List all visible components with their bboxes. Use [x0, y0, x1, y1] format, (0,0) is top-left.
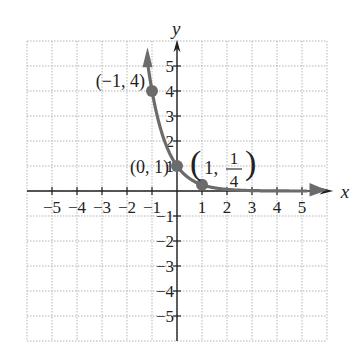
point-label-numerator: 1: [230, 149, 239, 168]
curve-arrow-up-icon: [143, 47, 153, 67]
point-label-paren-left: (: [190, 144, 201, 182]
y-tick-label: −4: [156, 282, 175, 301]
point-label-paren-right: ): [245, 144, 256, 182]
curve-arrow-right-icon: [310, 183, 328, 197]
x-tick-label: −5: [43, 198, 61, 217]
data-point: [171, 160, 183, 172]
point-label: 1,: [204, 157, 218, 178]
point-label-denominator: 4: [230, 172, 239, 191]
exponential-graph: xy −5−4−3−2−112345−5−4−3−2−112345 (−1, 4…: [0, 0, 363, 360]
x-axis-label: x: [340, 181, 350, 202]
x-tick-label: 2: [223, 198, 232, 217]
data-point: [146, 85, 158, 97]
y-tick-label: 3: [166, 107, 175, 126]
x-tick-label: 3: [248, 198, 257, 217]
x-tick-label: −2: [118, 198, 136, 217]
y-tick-label: −1: [156, 207, 174, 226]
y-axis-label: y: [170, 18, 181, 39]
y-tick-label: −2: [156, 232, 174, 251]
x-tick-label: −3: [93, 198, 111, 217]
x-tick-label: 4: [273, 198, 282, 217]
y-tick-label: −5: [156, 307, 174, 326]
x-tick-label: 5: [298, 198, 307, 217]
x-tick-label: 1: [198, 198, 207, 217]
data-points: (−1, 4)(0, 1)(1,14): [96, 71, 256, 191]
y-tick-label: 5: [166, 57, 175, 76]
y-tick-label: −3: [156, 257, 174, 276]
point-label: (−1, 4): [96, 71, 145, 92]
point-label: (0, 1): [130, 157, 169, 178]
y-tick-label: 4: [166, 82, 175, 101]
x-tick-label: −4: [68, 198, 87, 217]
